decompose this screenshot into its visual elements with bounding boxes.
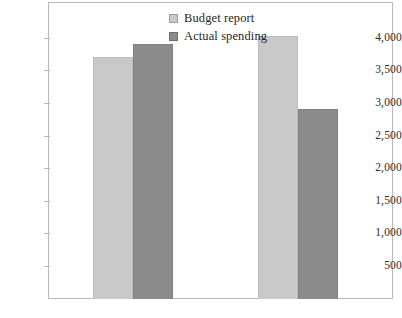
y-axis-label-4000: 4,000	[362, 32, 402, 44]
y-axis-label-1000: 1,000	[362, 227, 402, 239]
bar-group2-actual-spending	[298, 109, 338, 299]
y-tick-4000	[44, 38, 50, 39]
y-axis-label-1500: 1,500	[362, 195, 402, 207]
bar-group2-budget-report	[258, 36, 298, 299]
legend-item-budget-report: Budget report	[169, 11, 267, 26]
y-tick-500	[44, 266, 50, 267]
bar-chart: 4,000 3,500 3,000 2,500 2,000 1,500 1,00…	[0, 0, 402, 318]
legend-swatch-actual-icon	[169, 32, 178, 41]
chart-legend: Budget report Actual spending	[169, 11, 267, 44]
y-axis-label-500: 500	[362, 260, 402, 272]
y-axis-label-3000: 3,000	[362, 97, 402, 109]
legend-item-actual-spending: Actual spending	[169, 29, 267, 44]
y-tick-2000	[44, 168, 50, 169]
legend-label-actual-spending: Actual spending	[184, 30, 267, 43]
y-tick-3500	[44, 70, 50, 71]
y-tick-1500	[44, 201, 50, 202]
y-tick-1000	[44, 233, 50, 234]
y-tick-3000	[44, 103, 50, 104]
y-tick-2500	[44, 136, 50, 137]
bar-group1-budget-report	[93, 57, 133, 299]
y-axis-label-3500: 3,500	[362, 64, 402, 76]
legend-swatch-budget-icon	[169, 14, 178, 23]
y-axis-label-2000: 2,000	[362, 162, 402, 174]
y-axis-label-2500: 2,500	[362, 130, 402, 142]
bar-group1-actual-spending	[133, 44, 173, 299]
legend-label-budget-report: Budget report	[184, 12, 254, 25]
